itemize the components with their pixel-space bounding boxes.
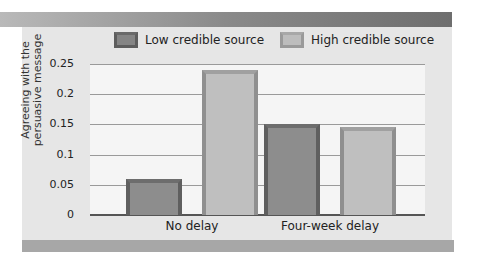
legend-swatch-low	[114, 32, 138, 48]
bar-high-no-delay	[202, 70, 258, 215]
x-tick-label: Four-week delay	[270, 219, 390, 233]
legend-item-high: High credible source	[280, 32, 434, 48]
header-bar	[0, 12, 452, 27]
bar-high-four-week-delay	[340, 127, 396, 215]
y-tick-label: 0.05	[34, 178, 74, 191]
plot-area	[90, 64, 425, 215]
y-tick-label: 0	[34, 208, 74, 221]
y-tick-label: 0.2	[34, 87, 74, 100]
y-tick-label: 0.25	[34, 57, 74, 70]
bar-low-four-week-delay	[264, 124, 320, 215]
legend-label-high: High credible source	[311, 33, 434, 47]
legend: Low credible source High credible source	[114, 32, 450, 48]
footer-bar	[22, 240, 454, 252]
legend-swatch-high	[280, 32, 304, 48]
gridline	[90, 64, 425, 65]
legend-label-low: Low credible source	[145, 33, 264, 47]
y-tick-label: 0.1	[34, 148, 74, 161]
y-tick-label: 0.15	[34, 117, 74, 130]
bar-low-no-delay	[126, 179, 182, 215]
legend-item-low: Low credible source	[114, 32, 264, 48]
x-tick-label: No delay	[132, 219, 252, 233]
